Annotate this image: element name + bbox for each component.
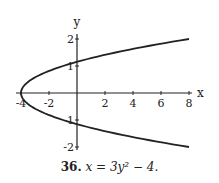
x-axis-label: x xyxy=(197,86,204,100)
y-tick-label: 1 xyxy=(67,60,74,73)
x-tick-label: -4 xyxy=(16,97,27,110)
caption-equation: x = 3y² − 4. xyxy=(85,160,158,174)
figure-caption: 36. x = 3y² − 4. xyxy=(0,160,219,174)
caption-number: 36. xyxy=(61,160,82,174)
x-tick-label: 4 xyxy=(130,97,137,110)
y-tick-label: 2 xyxy=(67,33,74,46)
y-tick-label: -2 xyxy=(63,141,74,154)
parabola-chart: -4-2246821-1-2xy xyxy=(0,0,219,183)
x-tick-label: 2 xyxy=(102,97,109,110)
y-tick-label: -1 xyxy=(63,114,74,127)
x-tick-label: 8 xyxy=(186,97,193,110)
y-axis-label: y xyxy=(73,15,81,29)
x-tick-label: -2 xyxy=(44,97,55,110)
x-tick-label: 6 xyxy=(158,97,165,110)
